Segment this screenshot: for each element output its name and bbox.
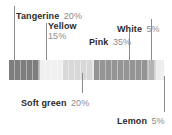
callout-value-yellow: 15% [48, 32, 77, 42]
leader-line-yellow [46, 23, 47, 60]
segment-hatch [94, 60, 148, 80]
leader-line-soft-green [82, 73, 83, 93]
stacked-bar-chart: Tangerine 20% Yellow 15% Pink 35% White … [0, 0, 172, 135]
bar-segment-white[interactable] [149, 60, 157, 80]
bar-segment-yellow[interactable] [40, 60, 63, 80]
leader-line-tangerine [14, 6, 15, 60]
segment-hatch [40, 60, 63, 80]
callout-soft-green: Soft green 20% [21, 92, 89, 109]
callout-label-lemon: Lemon [117, 116, 147, 126]
segment-hatch [63, 60, 94, 80]
bar-segment-pink[interactable] [94, 60, 148, 80]
callout-value-tangerine: 20% [64, 11, 82, 21]
bar-segment-soft-green[interactable] [63, 60, 94, 80]
callout-white: White 5% [117, 18, 160, 35]
callout-label-pink: Pink [89, 37, 108, 47]
bar-segment-lemon[interactable] [156, 60, 164, 80]
segment-hatch [9, 60, 40, 80]
callout-lemon: Lemon 5% [117, 110, 165, 127]
callout-value-soft-green: 20% [71, 98, 89, 108]
callout-value-lemon: 5% [151, 116, 164, 126]
callout-value-white: 5% [146, 24, 159, 34]
callout-yellow: Yellow 15% [48, 22, 77, 41]
segment-hatch [156, 60, 164, 80]
callout-label-white: White [117, 24, 142, 34]
stacked-bar-strip [9, 60, 164, 80]
callout-value-pink: 35% [113, 37, 131, 47]
callout-label-soft-green: Soft green [21, 98, 67, 108]
callout-tangerine: Tangerine 20% [16, 5, 82, 22]
callout-label-tangerine: Tangerine [16, 11, 59, 21]
bar-segment-tangerine[interactable] [9, 60, 40, 80]
leader-line-lemon [164, 76, 165, 112]
